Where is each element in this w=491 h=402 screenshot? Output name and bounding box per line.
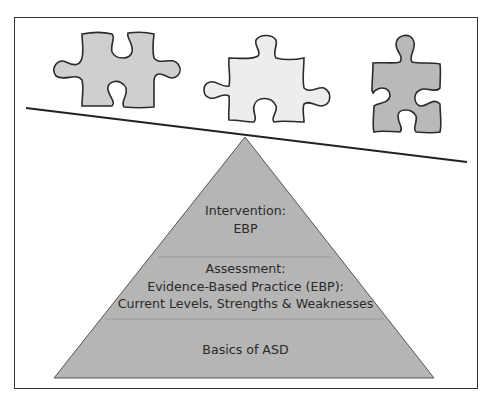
puzzle-piece-middle-icon	[204, 36, 330, 123]
level-basics-line-1: Basics of ASD	[0, 341, 491, 359]
level-intervention-line-1: Intervention:	[0, 202, 491, 220]
puzzle-piece-right-icon	[372, 35, 441, 132]
level-assessment-line-3: Current Levels, Strengths & Weaknesses	[0, 295, 491, 313]
level-intervention-line-2: EBP	[0, 220, 491, 238]
pyramid-level-intervention: Intervention: EBP	[0, 202, 491, 237]
puzzle-piece-left-icon	[54, 32, 180, 107]
level-assessment-line-1: Assessment:	[0, 260, 491, 278]
level-assessment-line-2: Evidence-Based Practice (EBP):	[0, 278, 491, 296]
pyramid-level-assessment: Assessment: Evidence-Based Practice (EBP…	[0, 260, 491, 313]
pyramid-level-basics: Basics of ASD	[0, 341, 491, 359]
